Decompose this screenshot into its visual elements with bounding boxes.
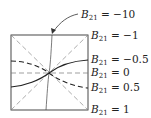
curve-b21-neg0.5-right xyxy=(49,60,88,73)
svg-text:B21 = −10: B21 = −10 xyxy=(80,8,135,22)
svg-text:B21 = −1: B21 = −1 xyxy=(90,29,139,43)
curve-b21-0.5-left xyxy=(11,73,49,87)
label-b21-0.5: B21 = 0.5 xyxy=(90,81,140,95)
label-b21-neg0.5: B21 = −0.5 xyxy=(90,53,149,67)
svg-text:B21 = 0.5: B21 = 0.5 xyxy=(90,81,140,95)
callout-arrow xyxy=(53,14,78,32)
label-b21-1: B21 = 1 xyxy=(90,103,130,117)
curve-family-diagram: B21 = −10 B21 = −1 B21 = −0.5 B21 = 0 B2… xyxy=(0,0,151,118)
label-b21-neg1: B21 = −1 xyxy=(90,29,139,43)
svg-text:B21 = 0: B21 = 0 xyxy=(90,66,130,80)
svg-text:B21 = 1: B21 = 1 xyxy=(90,103,130,117)
curve-b21-neg0.5-left xyxy=(11,61,49,73)
curve-b21-0.5-right xyxy=(49,73,88,88)
label-b21-neg10: B21 = −10 xyxy=(80,8,135,22)
svg-text:B21 = −0.5: B21 = −0.5 xyxy=(90,53,149,67)
label-b21-0: B21 = 0 xyxy=(90,66,130,80)
